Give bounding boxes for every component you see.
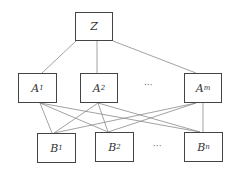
node-am-sub: m [204,84,211,92]
node-a2-label: A [93,82,101,95]
node-a2: A2 [80,73,118,103]
ellipsis-a: ··· [144,80,153,90]
node-z: Z [75,12,113,41]
node-b2-sub: 2 [116,143,120,151]
node-a1-label: A [31,82,39,95]
node-am: Am [184,73,222,103]
node-bn: Bn [184,132,223,162]
node-z-label: Z [90,20,98,33]
node-b1-label: B [50,142,58,155]
node-b2: B2 [95,132,134,162]
node-a2-sub: 2 [101,84,105,92]
node-a1-sub: 1 [39,84,43,92]
node-bn-sub: n [205,143,210,151]
node-b1: B1 [37,133,76,163]
node-a1: A1 [18,73,57,103]
node-am-label: A [196,82,204,95]
node-b1-sub: 1 [58,144,62,152]
node-bn-label: B [197,141,205,154]
ellipsis-b: ··· [153,141,162,151]
